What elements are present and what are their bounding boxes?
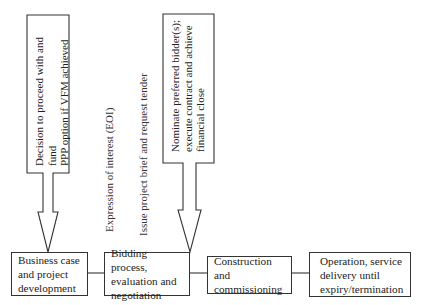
stage-bidding-process-label: Bidding process, evaluation and negotiat…: [111, 246, 183, 302]
stage-construction: Construction and commissioning: [207, 256, 292, 294]
annotation-project-brief: Issue project brief and request tender: [137, 73, 149, 236]
stage-business-case-label: Business case and project development: [18, 253, 80, 295]
stage-construction-label: Construction and commissioning: [214, 254, 285, 296]
decision-arrow-1-label: Decision to proceed with and fund PPP op…: [33, 16, 71, 166]
stage-operation: Operation, service delivery until expiry…: [309, 252, 411, 297]
stage-bidding-process: Bidding process, evaluation and negotiat…: [104, 252, 190, 296]
annotation-eoi: Expression of interest (EOI): [103, 108, 115, 232]
decision-arrow-2-label: Nominate preferred bidder(s); execute co…: [169, 7, 207, 152]
stage-operation-label: Operation, service delivery until expiry…: [320, 254, 403, 296]
stage-business-case: Business case and project development: [11, 252, 88, 296]
